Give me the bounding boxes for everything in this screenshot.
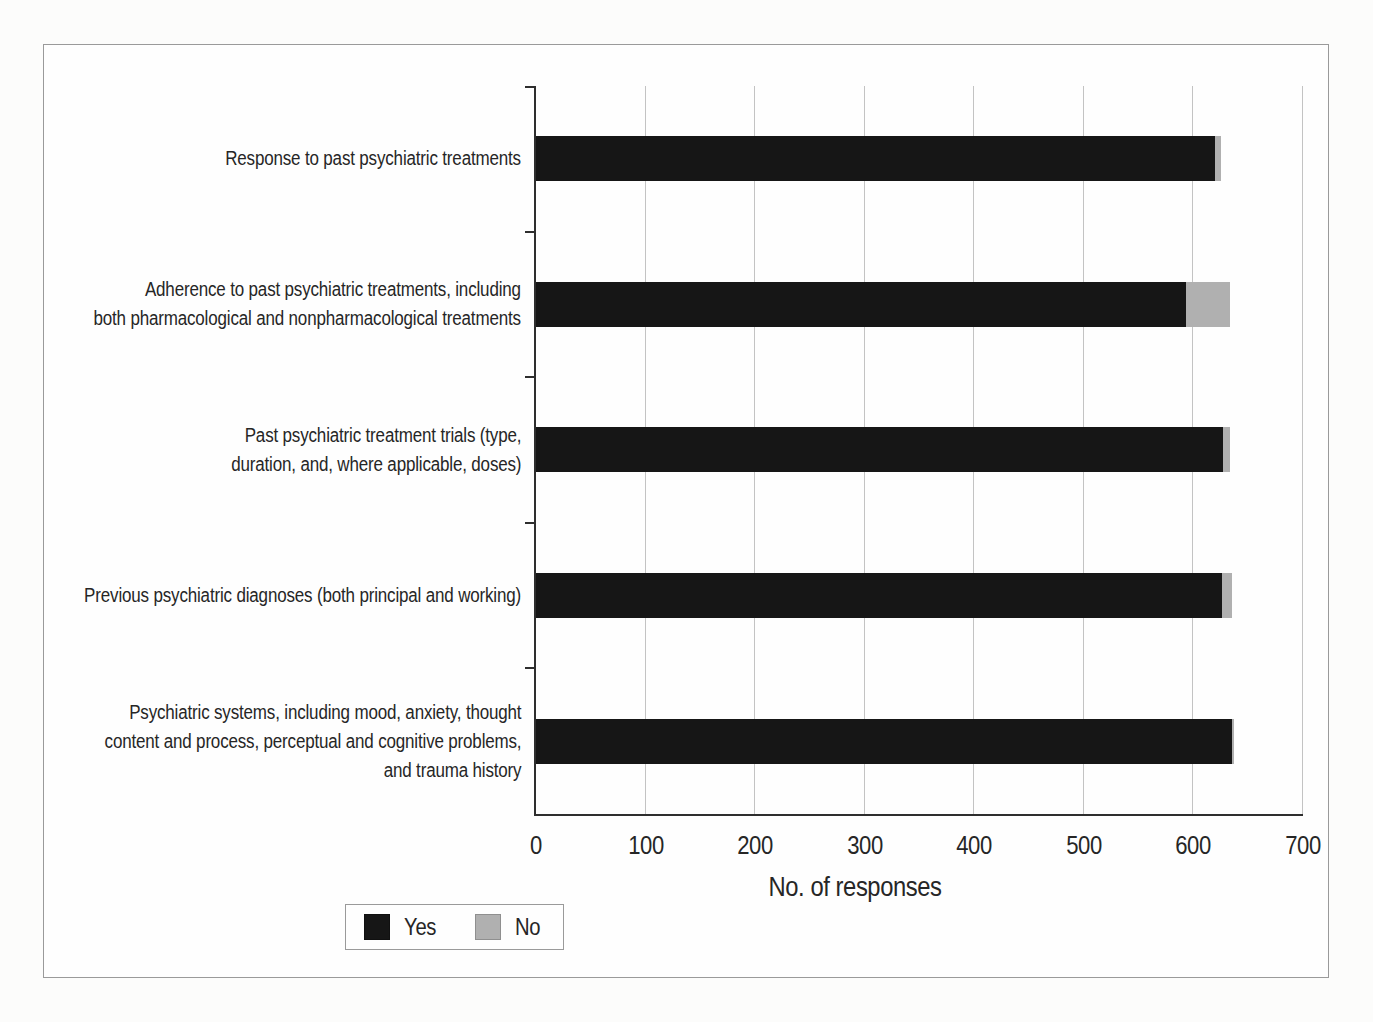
legend-item-yes: Yes (364, 914, 441, 941)
y-tick (525, 667, 536, 669)
y-tick (525, 376, 536, 378)
x-axis-ticks: 0100200300400500600700 (536, 818, 1303, 862)
bar-segment-no (1222, 573, 1232, 618)
bar-chart: Response to past psychiatric treatmentsA… (44, 86, 1303, 816)
category-label-text: Psychiatric systems, including mood, anx… (104, 698, 521, 785)
y-tick (525, 86, 536, 88)
legend-swatch-no (475, 914, 501, 940)
bar-segment-no (1215, 136, 1220, 181)
category-labels: Response to past psychiatric treatmentsA… (44, 86, 534, 816)
bar-segment-yes (536, 427, 1223, 472)
category-label: Adherence to past psychiatric treatments… (44, 232, 534, 378)
stacked-bar (536, 427, 1230, 472)
category-label: Previous psychiatric diagnoses (both pri… (44, 523, 534, 669)
bar-segment-yes (536, 719, 1232, 764)
x-tick-label-100: 100 (628, 830, 664, 861)
stacked-bar (536, 136, 1221, 181)
figure-frame: Response to past psychiatric treatmentsA… (43, 44, 1329, 978)
x-tick-label-400: 400 (956, 830, 992, 861)
stacked-bar (536, 573, 1232, 618)
page: { "page": { "background": "#fcfcfb" }, "… (0, 0, 1373, 1022)
bar-row (536, 86, 1303, 232)
legend-item-no: No (475, 914, 544, 941)
bar-row (536, 523, 1303, 669)
category-label-text: Past psychiatric treatment trials (type,… (231, 421, 521, 479)
legend-label-no: No (515, 914, 540, 941)
y-tick (525, 231, 536, 233)
x-tick-label-300: 300 (847, 830, 883, 861)
bar-segment-no (1232, 719, 1234, 764)
x-axis-title-row: No. of responses (536, 871, 1303, 907)
stacked-bar (536, 719, 1234, 764)
category-label-text: Adherence to past psychiatric treatments… (94, 275, 521, 333)
category-label-text: Previous psychiatric diagnoses (both pri… (84, 581, 521, 610)
bar-segment-no (1223, 427, 1230, 472)
bar-segment-yes (536, 282, 1186, 327)
x-tick-label-600: 600 (1176, 830, 1212, 861)
x-tick-label-200: 200 (737, 830, 773, 861)
legend-label-yes: Yes (404, 914, 436, 941)
x-tick-label-700: 700 (1285, 830, 1321, 861)
bar-row (536, 377, 1303, 523)
y-tick (525, 522, 536, 524)
category-label: Response to past psychiatric treatments (44, 86, 534, 232)
bar-segment-yes (536, 136, 1215, 181)
x-axis-title: No. of responses (768, 871, 941, 903)
stacked-bar (536, 282, 1230, 327)
bar-row (536, 668, 1303, 814)
bar-row (536, 232, 1303, 378)
bar-segment-no (1186, 282, 1230, 327)
category-label: Past psychiatric treatment trials (type,… (44, 377, 534, 523)
bar-segment-yes (536, 573, 1222, 618)
category-label-text: Response to past psychiatric treatments (225, 144, 521, 173)
legend-swatch-yes (364, 914, 390, 940)
category-label: Psychiatric systems, including mood, anx… (44, 668, 534, 814)
x-tick-label-0: 0 (530, 830, 542, 861)
plot-area (534, 86, 1303, 816)
x-tick-label-500: 500 (1066, 830, 1102, 861)
legend: YesNo (345, 904, 564, 950)
